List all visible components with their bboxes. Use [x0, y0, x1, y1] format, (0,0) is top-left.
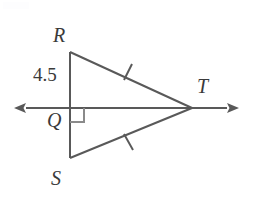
vertex-label-r: R — [53, 25, 65, 45]
tick-mark-ST — [124, 134, 133, 150]
vertex-label-q: Q — [47, 110, 61, 130]
geometry-figure: R Q S T 4.5 — [0, 0, 253, 198]
segment-RT — [70, 52, 192, 108]
vertex-label-t: T — [197, 76, 208, 96]
vertex-label-s: S — [51, 168, 61, 188]
geometry-canvas — [0, 0, 253, 198]
segment-measure-label-rq: 4.5 — [33, 65, 57, 84]
right-angle-marker-icon — [70, 108, 84, 122]
segment-ST — [70, 108, 192, 158]
